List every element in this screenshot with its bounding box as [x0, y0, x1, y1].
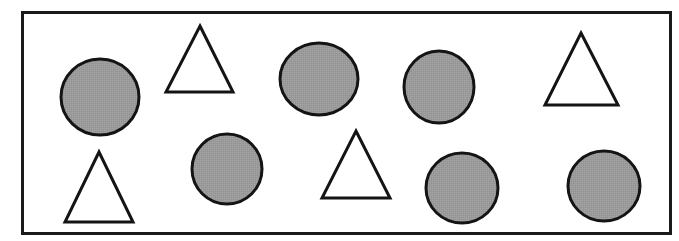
gray-circle-shape [568, 151, 640, 221]
gray-circle-shape [61, 59, 139, 135]
shapes-figure [0, 0, 679, 241]
gray-circle-shape [192, 134, 262, 204]
figure-container [0, 0, 679, 241]
gray-circle-shape [426, 153, 498, 223]
gray-circle-shape [404, 51, 474, 123]
gray-circle-shape [280, 43, 358, 115]
